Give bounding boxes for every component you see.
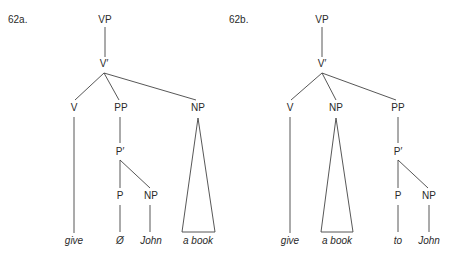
node-p: P bbox=[117, 191, 124, 201]
leaf-to: to bbox=[394, 236, 402, 246]
example-label-62b: 62b. bbox=[229, 15, 248, 25]
node-np: NP bbox=[329, 103, 343, 113]
node-vp: VP bbox=[98, 15, 111, 25]
leaf-a-book: a book bbox=[322, 236, 352, 246]
node-vbar: V′ bbox=[318, 59, 327, 69]
node-pbar: P′ bbox=[116, 147, 125, 157]
node-pp: PP bbox=[114, 103, 127, 113]
node-np: NP bbox=[191, 103, 205, 113]
leaf-null-p: Ø bbox=[116, 236, 124, 246]
tree-edges bbox=[0, 0, 458, 263]
leaf-john: John bbox=[418, 236, 440, 246]
leaf-john: John bbox=[140, 236, 162, 246]
node-pbar: P′ bbox=[394, 147, 403, 157]
leaf-give: give bbox=[65, 236, 83, 246]
node-p: P bbox=[395, 191, 402, 201]
leaf-a-book: a book bbox=[183, 236, 213, 246]
node-vp: VP bbox=[315, 15, 328, 25]
node-np-object: NP bbox=[144, 191, 158, 201]
node-pp: PP bbox=[391, 103, 404, 113]
node-v: V bbox=[71, 103, 78, 113]
node-np-object: NP bbox=[422, 191, 436, 201]
node-vbar: V′ bbox=[100, 59, 109, 69]
leaf-give: give bbox=[281, 236, 299, 246]
example-label-62a: 62a. bbox=[8, 15, 27, 25]
node-v: V bbox=[287, 103, 294, 113]
